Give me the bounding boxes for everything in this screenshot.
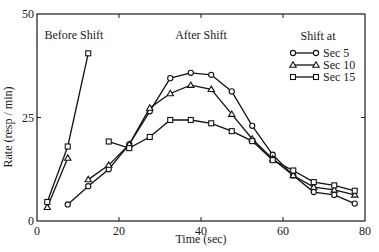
circle-marker-icon (311, 189, 316, 194)
square-marker-icon (270, 158, 275, 163)
square-marker-icon (229, 129, 234, 134)
circle-marker-icon (209, 72, 214, 77)
square-marker-icon (188, 117, 193, 122)
circle-marker-icon (250, 123, 255, 128)
x-tick-label: 20 (113, 224, 125, 238)
line-chart: 02040608002550 Time (sec) Rate (resp / m… (0, 0, 379, 252)
x-axis-label: Time (sec) (175, 232, 226, 246)
circle-marker-icon (168, 76, 173, 81)
square-marker-icon (352, 188, 357, 193)
circle-marker-icon (290, 50, 295, 55)
y-tick-label: 25 (22, 111, 34, 125)
x-tick-label: 0 (34, 224, 40, 238)
x-tick-label: 80 (359, 224, 371, 238)
y-axis-label: Rate (resp / min) (1, 87, 15, 168)
square-marker-icon (291, 168, 296, 173)
circle-marker-icon (188, 70, 193, 75)
square-marker-icon (291, 75, 296, 80)
annotation-after-shift: After Shift (175, 28, 227, 42)
circle-marker-icon (332, 192, 337, 197)
annotation-before-shift: Before Shift (44, 28, 104, 42)
square-marker-icon (250, 139, 255, 144)
triangle-marker-icon (85, 176, 91, 181)
square-marker-icon (314, 75, 319, 80)
legend-entry-sec15: Sec 15 (291, 70, 356, 84)
square-marker-icon (209, 121, 214, 126)
legend-label: Sec 15 (323, 70, 355, 84)
circle-marker-icon (229, 89, 234, 94)
triangle-marker-icon (188, 82, 194, 87)
square-marker-icon (147, 134, 152, 139)
square-marker-icon (45, 199, 50, 204)
square-marker-icon (332, 183, 337, 188)
y-tick-label: 0 (28, 214, 34, 228)
square-marker-icon (127, 146, 132, 151)
circle-marker-icon (65, 202, 70, 207)
square-marker-icon (311, 180, 316, 185)
y-tick-label: 50 (22, 7, 34, 21)
x-tick-label: 60 (277, 224, 289, 238)
triangle-marker-icon (65, 155, 71, 160)
square-marker-icon (86, 51, 91, 56)
circle-marker-icon (352, 201, 357, 206)
series-group (44, 51, 358, 210)
circle-marker-icon (86, 184, 91, 189)
square-marker-icon (106, 139, 111, 144)
legend: Shift at Sec 5 Sec 10 Sec 15 (290, 29, 356, 84)
chart-canvas: 02040608002550 Time (sec) Rate (resp / m… (0, 0, 379, 252)
legend-title: Shift at (301, 29, 337, 43)
square-marker-icon (65, 144, 70, 149)
square-marker-icon (168, 117, 173, 122)
circle-marker-icon (313, 50, 318, 55)
